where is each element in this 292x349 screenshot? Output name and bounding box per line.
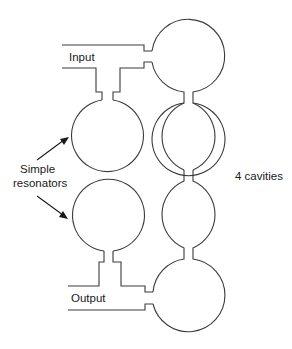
simple-resonators-label-line1: Simple <box>20 163 55 175</box>
input-label: Input <box>69 51 95 63</box>
input-port-right-branch <box>113 62 152 100</box>
arrow-to-upper-resonator <box>37 140 64 160</box>
arrowhead-lower-icon <box>59 211 68 219</box>
simple-resonators-label-line2: resonators <box>13 177 68 189</box>
output-port-bottom-line <box>68 304 153 310</box>
cavity-2-outline <box>162 103 215 170</box>
output-port-right-branch <box>113 251 153 292</box>
cavity-filter-diagram: Input Output Simple resonators 4 cavitie… <box>0 0 292 349</box>
arrowhead-upper-icon <box>60 137 69 145</box>
input-port-left-branch <box>62 68 102 100</box>
simple-resonator-upper <box>72 100 144 172</box>
arrow-to-lower-resonator <box>37 196 63 215</box>
cavities-label: 4 cavities <box>235 170 283 182</box>
output-label: Output <box>71 292 106 304</box>
cavity-2 <box>152 98 225 176</box>
cavity-3-outline <box>162 176 215 254</box>
output-port-left-branch <box>68 251 104 286</box>
cavity-4-outline <box>153 254 225 332</box>
cavity-1 <box>152 19 225 98</box>
simple-resonator-lower <box>72 179 144 251</box>
